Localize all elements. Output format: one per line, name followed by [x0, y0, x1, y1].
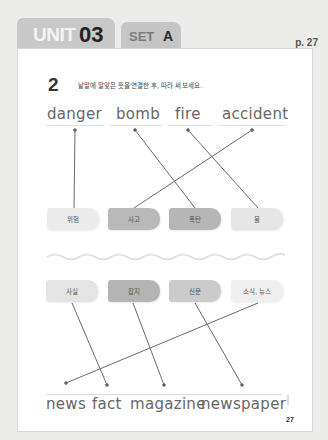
meaning-box-newspaper[interactable]: 신문 [169, 280, 221, 302]
meaning-box-news[interactable]: 소식, 뉴스 [231, 280, 283, 302]
side-marker [287, 395, 289, 405]
meaning-label: 폭탄 [189, 214, 201, 224]
meaning-label: 사고 [128, 214, 140, 224]
meaning-label: 불 [254, 214, 260, 224]
meaning-label: 소식, 뉴스 [243, 286, 271, 296]
footer-page-number: 27 [286, 416, 294, 423]
bottom-word-magazine: magazine [130, 395, 206, 413]
meaning-box-fire[interactable]: 불 [231, 208, 283, 230]
meaning-box-danger[interactable]: 위험 [47, 208, 99, 230]
bottom-word-news: news [46, 395, 86, 413]
meaning-label: 사실 [66, 286, 78, 296]
meaning-box-accident[interactable]: 사고 [108, 208, 160, 230]
bottom-word-fact: fact [92, 395, 122, 413]
meaning-box-fact[interactable]: 사실 [46, 280, 98, 302]
meaning-label: 신문 [189, 286, 201, 296]
meaning-box-bomb[interactable]: 폭탄 [169, 208, 221, 230]
meaning-label: 잡지 [128, 286, 140, 296]
meaning-box-magazine[interactable]: 잡지 [108, 280, 160, 302]
meaning-label: 위험 [67, 214, 79, 224]
bottom-word-newspaper: newspaper [201, 395, 286, 413]
